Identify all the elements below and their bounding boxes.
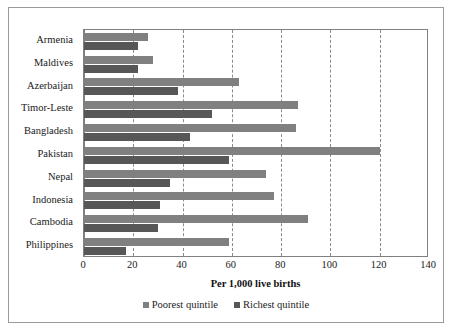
legend-swatch-poorest-icon: [143, 302, 149, 308]
legend-item-richest[interactable]: Richest quintile: [234, 299, 309, 310]
y-axis-category-labels: ArmeniaMaldivesAzerbaijanTimor-LesteBang…: [9, 29, 79, 257]
bar-philippines-poorest: [84, 238, 229, 246]
y-label-bangladesh: Bangladesh: [24, 126, 73, 137]
y-label-indonesia: Indonesia: [32, 195, 73, 206]
bar-azerbaijan-richest: [84, 87, 178, 95]
y-label-philippines: Philippines: [26, 240, 73, 251]
bar-timor-leste-richest: [84, 110, 212, 118]
bar-row: [84, 144, 427, 167]
y-label-pakistan: Pakistan: [37, 149, 73, 160]
bar-timor-leste-poorest: [84, 101, 298, 109]
bar-bangladesh-poorest: [84, 124, 296, 132]
plot-wrapper: [83, 29, 428, 257]
x-tick-40: 40: [176, 260, 187, 271]
y-label-timor-leste: Timor-Leste: [21, 103, 73, 114]
bar-nepal-poorest: [84, 170, 266, 178]
bar-philippines-richest: [84, 247, 126, 255]
x-tick-100: 100: [322, 260, 338, 271]
y-label-maldives: Maldives: [34, 58, 73, 69]
y-label-armenia: Armenia: [36, 35, 73, 46]
bar-indonesia-poorest: [84, 192, 274, 200]
bar-row: [84, 167, 427, 190]
plot-area: [83, 29, 428, 257]
bar-cambodia-richest: [84, 224, 158, 232]
x-axis-title: Per 1,000 live births: [83, 278, 428, 289]
x-tick-20: 20: [127, 260, 138, 271]
bar-nepal-richest: [84, 179, 170, 187]
x-tick-0: 0: [80, 260, 85, 271]
bar-row: [84, 212, 427, 235]
bar-pakistan-poorest: [84, 147, 380, 155]
x-tick-80: 80: [275, 260, 286, 271]
bar-maldives-richest: [84, 65, 138, 73]
legend-label: Poorest quintile: [152, 299, 218, 310]
bar-armenia-poorest: [84, 33, 148, 41]
legend-label: Richest quintile: [243, 299, 309, 310]
bar-row: [84, 76, 427, 99]
x-tick-60: 60: [226, 260, 237, 271]
bar-indonesia-richest: [84, 201, 160, 209]
y-label-azerbaijan: Azerbaijan: [27, 81, 73, 92]
bar-cambodia-poorest: [84, 215, 308, 223]
x-tick-140: 140: [420, 260, 436, 271]
x-axis-tick-labels: 020406080100120140: [83, 260, 428, 276]
bar-armenia-richest: [84, 42, 138, 50]
legend-swatch-richest-icon: [234, 302, 240, 308]
chart-frame: ArmeniaMaldivesAzerbaijanTimor-LesteBang…: [8, 7, 444, 323]
bar-bangladesh-richest: [84, 133, 190, 141]
bar-azerbaijan-poorest: [84, 78, 239, 86]
bar-rows: [84, 30, 427, 256]
bar-maldives-poorest: [84, 56, 153, 64]
bar-row: [84, 190, 427, 213]
bar-row: [84, 98, 427, 121]
y-label-cambodia: Cambodia: [30, 217, 73, 228]
bar-pakistan-richest: [84, 156, 229, 164]
bar-row: [84, 235, 427, 257]
bar-row: [84, 121, 427, 144]
bar-row: [84, 30, 427, 53]
chart-legend: Poorest quintileRichest quintile: [9, 299, 443, 310]
y-label-nepal: Nepal: [48, 172, 73, 183]
legend-item-poorest[interactable]: Poorest quintile: [143, 299, 218, 310]
x-tick-120: 120: [371, 260, 387, 271]
bar-row: [84, 53, 427, 76]
